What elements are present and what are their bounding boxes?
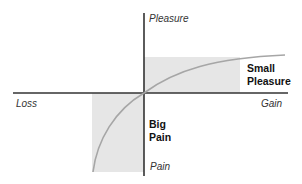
pain-axis-label: Pain <box>150 161 170 173</box>
diagram-canvas <box>0 0 302 184</box>
big-pain-label: Big Pain <box>149 118 171 144</box>
gain-pleasure-region <box>144 57 240 93</box>
gain-axis-label: Gain <box>261 98 282 110</box>
pleasure-axis-label: Pleasure <box>149 13 188 25</box>
loss-pain-region <box>92 93 144 172</box>
small-pleasure-label: Small Pleasure <box>247 62 291 88</box>
loss-axis-label: Loss <box>16 98 37 110</box>
